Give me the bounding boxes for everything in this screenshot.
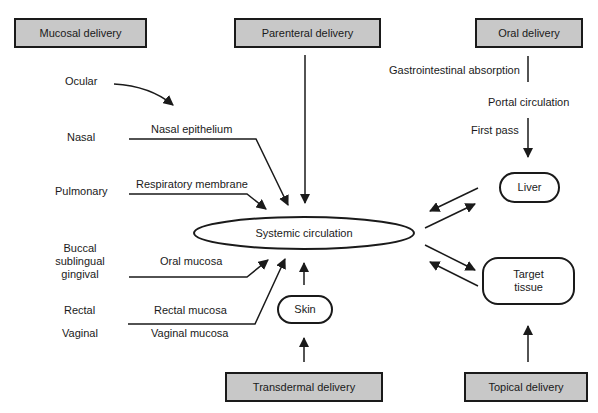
systemic-circulation-label: Systemic circulation [234, 227, 374, 240]
target-tissue-label-2: tissue [514, 281, 543, 294]
target-to-systemic-arrow [430, 262, 478, 286]
route-vaginal: Vaginal [62, 327, 98, 340]
route-nasal: Nasal [67, 131, 95, 144]
barrier-oral-mucosa: Oral mucosa [160, 255, 222, 268]
route-buccal-sublingual-gingival: Buccal sublingual gingival [50, 242, 110, 281]
skin-label: Skin [294, 303, 315, 316]
ocular-arrow [114, 84, 173, 105]
target-tissue-label-1: Target [513, 268, 544, 281]
liver-node: Liver [499, 172, 560, 203]
route-ocular: Ocular [65, 75, 97, 88]
liver-label: Liver [518, 181, 542, 194]
barrier-vaginal-mucosa: Vaginal mucosa [151, 327, 228, 340]
barrier-rectal-mucosa: Rectal mucosa [154, 304, 227, 317]
route-gingival: gingival [50, 268, 110, 281]
label-first-pass: First pass [471, 124, 519, 137]
route-buccal: Buccal [50, 242, 110, 255]
topical-delivery-box: Topical delivery [464, 372, 588, 402]
oral-delivery-box: Oral delivery [475, 18, 583, 48]
systemic-to-liver-arrow [425, 204, 475, 228]
liver-to-systemic-arrow [430, 188, 478, 211]
barrier-respiratory-membrane: Respiratory membrane [136, 178, 248, 191]
transdermal-delivery-box: Transdermal delivery [225, 372, 383, 402]
pulmonary-arrow [129, 194, 266, 209]
skin-node: Skin [277, 295, 333, 324]
systemic-to-target-arrow [425, 245, 475, 270]
target-tissue-node: Target tissue [482, 257, 575, 305]
label-gi-absorption: Gastrointestinal absorption [389, 64, 520, 77]
route-sublingual: sublingual [50, 255, 110, 268]
route-rectal: Rectal [64, 304, 95, 317]
parenteral-delivery-box: Parenteral delivery [234, 18, 381, 48]
connector-arrows [0, 0, 598, 413]
label-portal-circulation: Portal circulation [488, 96, 569, 109]
route-pulmonary: Pulmonary [55, 185, 108, 198]
barrier-nasal-epithelium: Nasal epithelium [151, 123, 232, 136]
nasal-arrow [129, 139, 288, 205]
mucosal-delivery-box: Mucosal delivery [14, 18, 147, 48]
